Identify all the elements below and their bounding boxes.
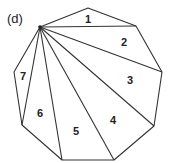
triangle-label-4: 4 xyxy=(110,114,117,126)
triangle-label-5: 5 xyxy=(73,125,79,137)
diagonal-line xyxy=(40,27,162,72)
diagonal-line xyxy=(40,27,154,126)
diagonal-line xyxy=(40,26,136,27)
triangle-label-2: 2 xyxy=(121,36,127,48)
triangle-label-3: 3 xyxy=(127,74,133,86)
apex-vertex xyxy=(38,25,42,29)
triangle-label-6: 6 xyxy=(37,107,43,119)
triangle-label-7: 7 xyxy=(20,70,26,82)
nonagon-outline xyxy=(14,8,162,160)
diagonals xyxy=(22,26,162,160)
triangle-label-1: 1 xyxy=(85,13,91,25)
panel-label: (d) xyxy=(7,11,23,26)
triangulated-nonagon-diagram: (d) 1234567 xyxy=(0,0,169,163)
